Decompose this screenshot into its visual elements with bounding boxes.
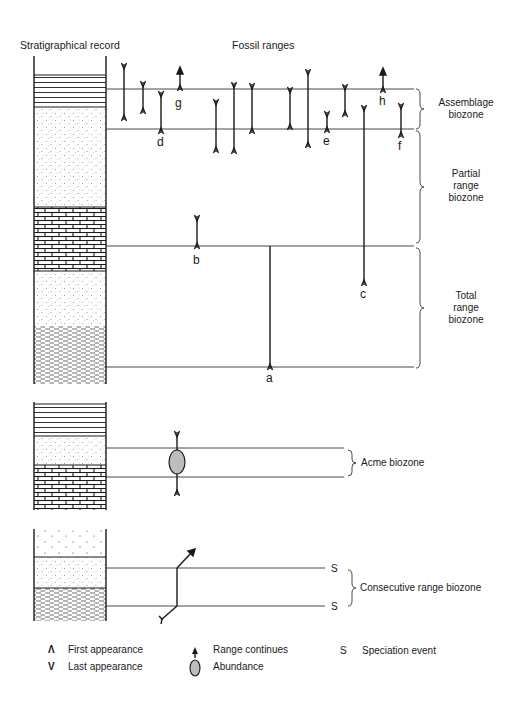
speciation-icon: S — [340, 645, 347, 656]
legend-first-appearance: First appearance — [68, 644, 143, 655]
strat-column-main — [34, 56, 106, 384]
taxon-label-e: e — [323, 135, 330, 148]
taxon-label-f: f — [398, 140, 401, 153]
fossil-ranges-header: Fossil ranges — [232, 39, 294, 51]
speciation-mark-lower: S — [331, 601, 338, 613]
consecutive-brace — [348, 570, 356, 606]
zone-boundaries — [106, 89, 414, 367]
acme-brace — [348, 450, 356, 476]
label-line: biozone — [426, 314, 506, 326]
speciation-lineage — [159, 549, 195, 624]
taxon-label-d: d — [157, 136, 164, 149]
legend-speciation-event: Speciation event — [362, 645, 436, 656]
first-appearance-icon: Λ — [48, 644, 55, 655]
taxon-label-b: b — [193, 254, 200, 267]
taxon-label-c: c — [360, 288, 366, 301]
partial-range-biozone-label: Partial range biozone — [426, 168, 506, 204]
legend-symbols — [190, 647, 200, 676]
last-appearance-icon: V — [48, 661, 55, 672]
speciation-mark-upper: S — [331, 563, 338, 575]
consecutive-range-biozone-label: Consecutive range biozone — [360, 582, 481, 594]
zone-braces — [416, 89, 424, 368]
strat-record-header: Stratigraphical record — [20, 39, 120, 51]
fossil-ranges — [122, 63, 404, 370]
legend-abundance: Abundance — [213, 661, 264, 672]
label-line: biozone — [426, 192, 506, 204]
label-line: Total — [426, 290, 506, 302]
taxon-label-a: a — [266, 372, 273, 385]
legend-last-appearance: Last appearance — [68, 661, 143, 672]
taxon-label-h: h — [379, 95, 386, 108]
assemblage-biozone-label: Assemblage biozone — [426, 97, 506, 121]
acme-boundaries — [106, 448, 344, 477]
total-range-biozone-label: Total range biozone — [426, 290, 506, 326]
label-line: range — [426, 302, 506, 314]
acme-biozone-label: Acme biozone — [361, 457, 424, 469]
label-line: Partial — [426, 168, 506, 180]
strat-column-consecutive — [34, 529, 106, 621]
taxon-label-g: g — [175, 97, 182, 110]
legend-range-continues: Range continues — [213, 644, 288, 655]
abundance-ellipse — [169, 450, 185, 474]
label-line: biozone — [426, 109, 506, 121]
strat-column-acme — [34, 402, 106, 510]
label-line: range — [426, 180, 506, 192]
consecutive-boundaries — [106, 568, 325, 606]
label-line: Assemblage — [426, 97, 506, 109]
